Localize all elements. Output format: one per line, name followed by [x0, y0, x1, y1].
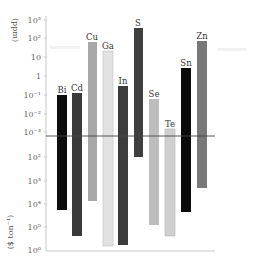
element-abundance-price-chart: 10³ 10² 10 1 10⁻¹ 10⁻² 10⁻³ 10² 10³ 10⁴ … [0, 0, 254, 265]
bar-ga [103, 51, 113, 246]
bar-cd [72, 93, 82, 236]
bar-label-bi: Bi [58, 85, 67, 95]
bar-label-cu: Cu [86, 32, 99, 42]
tick-label: 10⁵ [28, 223, 41, 232]
bar-se [149, 99, 159, 225]
upper-tick-labels: 10³ 10² 10 1 10⁻¹ 10⁻² 10⁻³ [23, 16, 41, 137]
tick-label: 10⁻¹ [23, 91, 41, 100]
tick-label: 10 [31, 53, 41, 62]
tick-label: 10³ [28, 177, 41, 186]
bar-s [134, 28, 143, 157]
bar-label-cd: Cd [71, 83, 84, 93]
tick-label: 10⁶ [28, 246, 41, 255]
tick-label: 10⁻² [23, 110, 41, 119]
bar-label-zn: Zn [196, 31, 208, 41]
bar-label-s: S [135, 18, 141, 28]
tick-label: 10³ [28, 16, 41, 25]
bar-in [118, 86, 128, 245]
bar-label-in: In [119, 76, 128, 86]
bar-label-te: Te [165, 119, 175, 129]
lower-axis-title: ($ ton⁻¹) [6, 215, 15, 250]
bar-cu [88, 42, 97, 201]
lower-tick-labels: 10² 10³ 10⁴ 10⁵ 10⁶ [28, 153, 41, 255]
bar-label-sn: Sn [180, 58, 192, 68]
tick-label: 10² [28, 153, 41, 162]
bar-label-ga: Ga [102, 41, 114, 51]
bar-sn [181, 68, 191, 212]
bar-label-se: Se [149, 89, 160, 99]
tick-label: 1 [36, 72, 41, 81]
tick-label: 10² [28, 34, 41, 43]
bar-bi [57, 95, 67, 210]
tick-label: 10⁴ [28, 200, 41, 209]
tick-label: 10⁻³ [23, 128, 41, 137]
bar-zn [197, 41, 207, 188]
faint-mark [218, 48, 246, 51]
bar-te [165, 129, 175, 236]
upper-axis-title: (ppm) [11, 18, 20, 42]
faint-mark [50, 46, 80, 49]
